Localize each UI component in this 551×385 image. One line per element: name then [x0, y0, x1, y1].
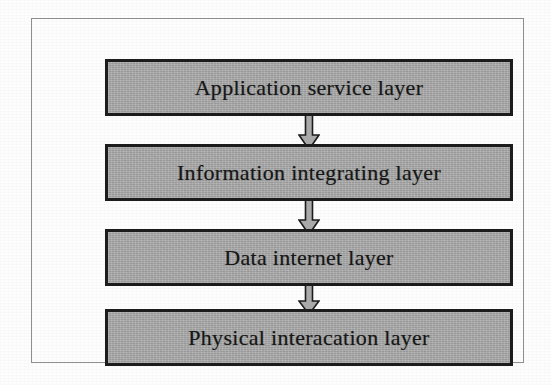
layer-label-physical-interacation: Physical interacation layer	[188, 327, 429, 349]
layer-stack: Application service layer Information in…	[105, 59, 513, 367]
layer-label-data-internet: Data internet layer	[224, 247, 393, 269]
layer-box-data-internet: Data internet layer	[105, 229, 513, 286]
layer-box-physical-interacation: Physical interacation layer	[105, 309, 513, 366]
layer-label-application-service: Application service layer	[195, 77, 424, 99]
layer-box-application-service: Application service layer	[105, 59, 513, 116]
scanned-page: Application service layer Information in…	[0, 0, 551, 385]
layer-label-information-integrating: Information integrating layer	[177, 162, 441, 184]
layer-box-information-integrating: Information integrating layer	[105, 144, 513, 201]
diagram-frame: Application service layer Information in…	[31, 18, 524, 363]
